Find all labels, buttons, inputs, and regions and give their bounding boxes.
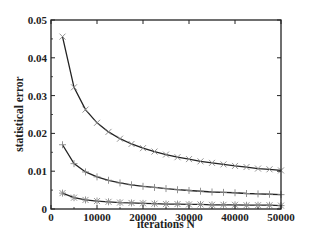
- data-point-marker: [243, 190, 250, 197]
- y-tick-label: 0.04: [28, 52, 48, 64]
- data-point-marker: [94, 120, 100, 126]
- plot-frame: [51, 20, 281, 209]
- data-point-marker: [128, 199, 135, 206]
- data-point-marker: [163, 185, 170, 192]
- data-point-marker: [197, 188, 204, 195]
- data-point-marker: [106, 129, 112, 135]
- series-lower: [59, 190, 285, 209]
- x-axis-label: iterations N: [137, 218, 196, 230]
- data-point-marker: [174, 201, 181, 208]
- data-point-marker: [117, 199, 124, 206]
- data-point-marker: [163, 201, 170, 208]
- data-point-marker: [266, 202, 273, 209]
- axes: 0100002000030000400005000000.010.020.030…: [28, 14, 296, 223]
- series-line: [63, 37, 282, 171]
- data-point-marker: [59, 190, 66, 197]
- y-tick-label: 0.03: [28, 90, 48, 102]
- y-axis-label: statistical error: [13, 76, 25, 151]
- series-upper: [60, 34, 285, 174]
- data-point-marker: [117, 179, 124, 186]
- data-point-marker: [82, 196, 89, 203]
- data-point-marker: [140, 183, 147, 190]
- data-point-marker: [105, 177, 112, 184]
- data-point-marker: [151, 200, 158, 207]
- x-tick-label: 10000: [83, 211, 111, 223]
- data-point-marker: [243, 202, 250, 209]
- series-layer: [59, 34, 285, 209]
- y-tick-label: 0.05: [28, 14, 48, 26]
- data-point-marker: [220, 201, 227, 208]
- data-point-marker: [220, 189, 227, 196]
- y-tick-label: 0.01: [28, 165, 47, 177]
- data-point-marker: [94, 198, 101, 205]
- data-point-marker: [186, 187, 193, 194]
- data-point-marker: [71, 194, 78, 201]
- x-tick-label: 0: [48, 211, 54, 223]
- data-point-marker: [209, 188, 216, 195]
- data-point-marker: [128, 181, 135, 188]
- data-point-marker: [94, 173, 101, 180]
- data-point-marker: [129, 141, 135, 147]
- data-point-marker: [232, 189, 239, 196]
- x-tick-label: 40000: [221, 211, 249, 223]
- data-point-marker: [105, 198, 112, 205]
- data-point-marker: [255, 190, 262, 197]
- x-tick-label: 50000: [267, 211, 295, 223]
- data-point-marker: [83, 107, 89, 113]
- data-point-marker: [59, 141, 66, 148]
- data-point-marker: [151, 184, 158, 191]
- y-tick-label: 0: [42, 203, 48, 215]
- statistical-error-chart: 0100002000030000400005000000.010.020.030…: [0, 0, 312, 243]
- series-middle: [59, 141, 285, 198]
- data-point-marker: [174, 186, 181, 193]
- series-line: [63, 145, 282, 195]
- data-point-marker: [117, 136, 123, 142]
- data-point-marker: [197, 201, 204, 208]
- y-tick-label: 0.02: [28, 127, 48, 139]
- data-point-marker: [266, 191, 273, 198]
